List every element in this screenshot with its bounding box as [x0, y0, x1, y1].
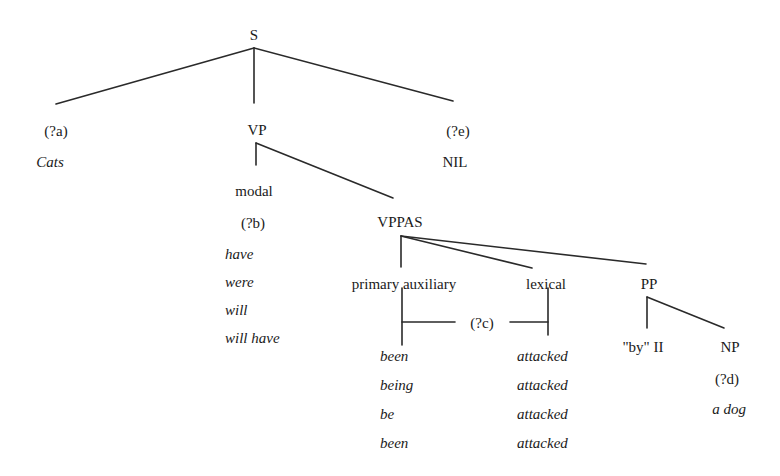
slot-c: (?c) [470, 314, 493, 332]
slot-e: (?e) [446, 122, 469, 140]
modal-value: will have [225, 329, 280, 347]
aux-value: been [380, 347, 408, 365]
extra-value: NIL [443, 153, 468, 171]
node-lexical: lexical [526, 275, 566, 293]
node-primary-auxiliary: primary auxiliary [352, 275, 457, 293]
subject-value: Cats [36, 153, 64, 171]
node-s: S [250, 26, 258, 44]
aux-value: being [380, 376, 413, 394]
modal-value: will [225, 301, 248, 319]
node-modal: modal [235, 182, 273, 200]
node-by-prep: "by" II [623, 338, 664, 356]
lexical-value: attacked [517, 405, 568, 423]
np-value: a dog [712, 400, 746, 418]
node-vp: VP [247, 121, 266, 139]
aux-value: been [380, 434, 408, 452]
lexical-value: attacked [517, 434, 568, 452]
modal-value: have [225, 245, 253, 263]
aux-value: be [380, 405, 394, 423]
modal-value: were [225, 273, 254, 291]
slot-d: (?d) [715, 370, 739, 388]
lexical-value: attacked [517, 376, 568, 394]
slot-a: (?a) [44, 122, 67, 140]
node-pp: PP [641, 275, 658, 293]
node-np: NP [720, 338, 739, 356]
lexical-value: attacked [517, 347, 568, 365]
slot-b: (?b) [241, 214, 265, 232]
node-vppas: VPPAS [377, 213, 422, 231]
